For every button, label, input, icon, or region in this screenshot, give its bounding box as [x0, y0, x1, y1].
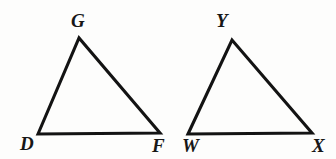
vertex-label-g: G [71, 11, 85, 30]
triangles-canvas [0, 0, 336, 159]
vertex-label-w: W [182, 136, 199, 155]
vertex-label-x: X [312, 136, 325, 155]
vertex-label-d: D [20, 134, 34, 153]
vertex-label-y: Y [216, 11, 228, 30]
geometry-figure: D G F W Y X [0, 0, 336, 159]
vertex-label-f: F [152, 136, 165, 155]
